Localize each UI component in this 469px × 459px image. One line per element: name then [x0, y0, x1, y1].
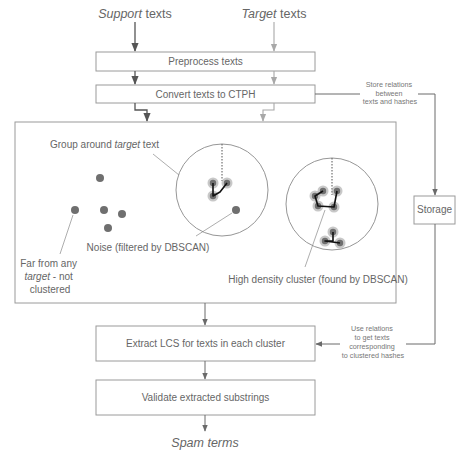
- preprocess-step-label: Preprocess texts: [168, 56, 242, 67]
- preprocess-step: Preprocess texts: [96, 52, 315, 71]
- use-relations-note: Use relations to get texts corresponding…: [342, 324, 405, 360]
- validate-step: Validate extracted substrings: [96, 380, 315, 415]
- support-texts-label: Support texts: [98, 7, 172, 21]
- target-to-clustering-arrow: [263, 103, 274, 121]
- group-around-target-label: Group around target text: [50, 139, 159, 150]
- extract-lcs-step-label: Extract LCS for texts in each cluster: [126, 338, 286, 349]
- storage-box: Storage: [414, 196, 455, 224]
- use-relations-line: [406, 224, 435, 344]
- store-relations-note: Store relations between texts and hashes: [363, 80, 418, 106]
- noise-label: Noise (filtered by DBSCAN): [87, 242, 210, 253]
- store-relations-arrow: [418, 94, 435, 195]
- far-point: [71, 206, 79, 214]
- storage-label: Storage: [417, 204, 452, 215]
- spam-terms-output: Spam terms: [171, 436, 238, 450]
- high-density-cluster-label: High density cluster (found by DBSCAN): [228, 274, 408, 285]
- support-to-clustering-arrow: [135, 103, 147, 121]
- target-texts-label: Target texts: [242, 7, 307, 21]
- convert-ctph-step: Convert texts to CTPH: [96, 85, 315, 103]
- convert-ctph-step-label: Convert texts to CTPH: [155, 89, 255, 100]
- clustering-panel: Group around target text Far from any ta…: [15, 122, 408, 303]
- noise-point-in-group: [232, 206, 240, 214]
- extract-lcs-step: Extract LCS for texts in each cluster: [96, 326, 315, 361]
- validate-step-label: Validate extracted substrings: [142, 392, 270, 403]
- spam-term-extraction-flowchart: Support texts Target texts Preprocess te…: [0, 0, 469, 459]
